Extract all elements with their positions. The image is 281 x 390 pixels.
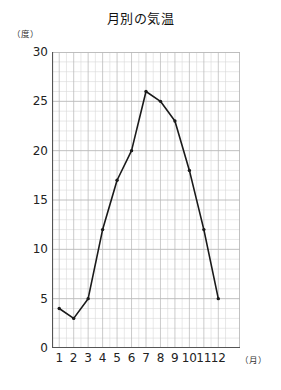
y-axis-tick-label: 10 [22,243,48,255]
y-axis-tick-label: 15 [22,194,48,206]
plot-area [52,52,240,348]
chart-svg [52,52,240,348]
y-axis-tick-label: 5 [22,293,48,305]
y-axis-tick-labels: 051015202530 [18,52,48,348]
y-axis-tick-label: 0 [22,342,48,354]
temperature-line-chart: 月別の気温 （度） （月） 051015202530 1234567891011… [0,0,281,390]
y-axis-tick-label: 20 [22,145,48,157]
y-axis-unit-label: （度） [12,27,39,39]
x-axis-tick-label: 12 [209,352,227,364]
y-axis-tick-label: 30 [22,46,48,58]
x-axis-tick-labels: 123456789101112 [52,352,240,368]
y-axis-tick-label: 25 [22,95,48,107]
x-axis-unit-label: （月） [240,353,267,365]
chart-title: 月別の気温 [0,8,281,27]
